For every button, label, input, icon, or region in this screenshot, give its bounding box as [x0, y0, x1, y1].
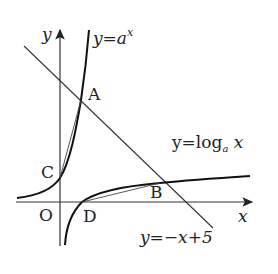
point-B-label: B [150, 182, 163, 202]
x-axis-label: x [238, 206, 248, 226]
line-label: y=−x+5 [139, 227, 213, 247]
graph-figure: y x O A B C D y=ax y=loga x y=−x+5 [0, 0, 278, 274]
chord-CA [60, 100, 81, 178]
chord-DB [82, 183, 160, 202]
y-axis-label: y [41, 24, 52, 44]
exp-curve-label: y=ax [92, 26, 134, 48]
point-A-label: A [87, 84, 101, 104]
point-D-label: D [83, 206, 97, 226]
point-C-label: C [41, 162, 54, 182]
origin-label: O [39, 205, 53, 225]
log-curve-label: y=loga x [171, 132, 244, 154]
